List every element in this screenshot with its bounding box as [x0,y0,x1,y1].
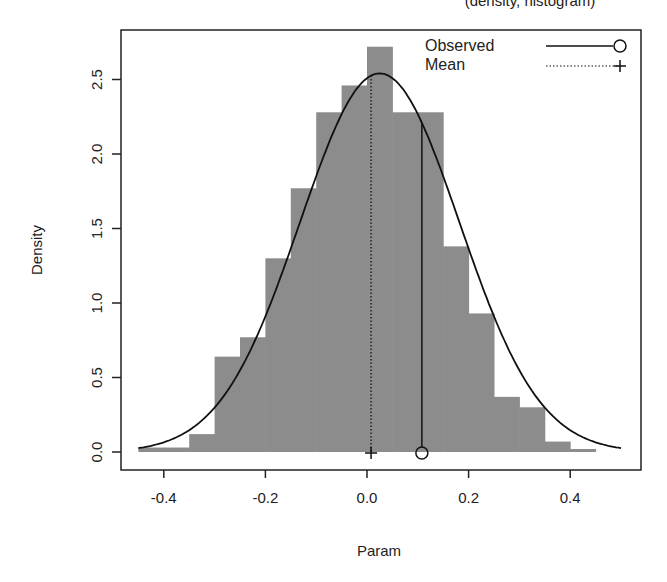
histogram-bar [164,448,190,452]
histogram-bar [545,442,571,452]
y-tick-label: 0.0 [88,442,105,463]
y-tick-label: 1.0 [88,293,105,314]
legend-observed-circle-icon [614,40,626,52]
y-tick-label: 2.0 [88,144,105,165]
histogram-bar [265,258,291,452]
histogram-bar [189,434,215,452]
histogram-bars [138,47,596,452]
x-axis: -0.4-0.20.00.20.4 [151,470,581,506]
legend: Observed Mean [425,37,626,73]
y-tick-label: 2.5 [88,69,105,90]
histogram-bar [342,85,368,452]
histogram-bar [443,246,469,452]
histogram-bar [570,449,596,452]
histogram-bar [494,397,520,452]
x-tick-label: -0.4 [151,489,177,506]
legend-observed-label: Observed [425,37,494,54]
histogram-bar [469,313,495,452]
histogram-bar [392,112,418,452]
histogram-bar [291,188,317,452]
x-axis-title: Param [357,542,401,559]
y-tick-label: 0.5 [88,367,105,388]
y-axis-title: Density [28,224,45,275]
x-tick-label: 0.0 [357,489,378,506]
histogram-bar [240,337,266,452]
x-tick-label: 0.4 [560,489,581,506]
y-axis: 0.00.51.01.52.02.5 [88,69,121,462]
y-tick-label: 1.5 [88,218,105,239]
chart-title: (density, histogram) [465,0,596,9]
x-tick-label: 0.2 [458,489,479,506]
legend-mean-plus-icon [614,60,626,72]
histogram-chart: (density, histogram) -0.4-0.20.00.20.4 0… [0,0,667,582]
x-tick-label: -0.2 [252,489,278,506]
legend-mean-label: Mean [425,56,465,73]
histogram-bar [519,407,545,452]
